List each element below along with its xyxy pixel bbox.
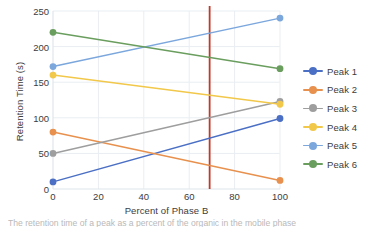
legend-item-1[interactable]: Peak 1 xyxy=(303,62,381,81)
line-chart-figure: Retention Time (s) 050100150200250 02040… xyxy=(0,0,381,227)
data-point-1-2 xyxy=(277,115,284,122)
legend-item-5[interactable]: Peak 5 xyxy=(303,136,381,155)
legend-label: Peak 3 xyxy=(327,103,357,114)
y-tick-label: 50 xyxy=(15,148,49,159)
series-line-5 xyxy=(53,18,280,66)
x-tick-label: 40 xyxy=(124,191,164,202)
legend-item-3[interactable]: Peak 3 xyxy=(303,99,381,118)
chart-legend: Peak 1Peak 2Peak 3Peak 4Peak 5Peak 6 xyxy=(303,62,381,174)
data-point-4-1 xyxy=(50,72,57,79)
data-point-1-1 xyxy=(50,178,57,185)
x-tick-label: 20 xyxy=(78,191,118,202)
series-lines xyxy=(53,18,280,182)
plot-svg xyxy=(53,11,280,189)
x-tick-label: 0 xyxy=(33,191,73,202)
legend-swatch-icon xyxy=(303,85,323,95)
legend-label: Peak 4 xyxy=(327,122,357,133)
legend-swatch-icon xyxy=(303,141,323,151)
figure-caption: The retention time of a peak as a percen… xyxy=(8,218,374,227)
legend-swatch-icon xyxy=(303,122,323,132)
y-tick-label: 250 xyxy=(15,6,49,17)
legend-label: Peak 2 xyxy=(327,84,357,95)
series-line-6 xyxy=(53,32,280,68)
legend-swatch-icon xyxy=(303,103,323,113)
y-axis-tick-labels: 050100150200250 xyxy=(12,11,49,189)
data-point-6-1 xyxy=(50,29,57,36)
x-tick-label: 100 xyxy=(260,191,300,202)
x-axis-title: Percent of Phase B xyxy=(40,205,293,216)
legend-swatch-icon xyxy=(303,66,323,76)
data-point-6-2 xyxy=(277,65,284,72)
data-point-5-2 xyxy=(277,15,284,22)
legend-item-2[interactable]: Peak 2 xyxy=(303,81,381,100)
legend-label: Peak 6 xyxy=(327,159,357,170)
data-point-3-1 xyxy=(50,150,57,157)
series-line-2 xyxy=(53,132,280,180)
legend-item-6[interactable]: Peak 6 xyxy=(303,155,381,174)
x-tick-label: 60 xyxy=(169,191,209,202)
series-line-4 xyxy=(53,75,280,104)
legend-swatch-icon xyxy=(303,159,323,169)
legend-item-4[interactable]: Peak 4 xyxy=(303,118,381,137)
chart-screenshot: Retention Time (s) 050100150200250 02040… xyxy=(0,0,381,227)
data-point-4-2 xyxy=(277,101,284,108)
data-point-5-1 xyxy=(50,63,57,70)
plot-area xyxy=(53,11,280,189)
x-tick-label: 80 xyxy=(215,191,255,202)
y-tick-label: 200 xyxy=(15,41,49,52)
y-tick-label: 150 xyxy=(15,77,49,88)
data-point-2-1 xyxy=(50,129,57,136)
data-point-2-2 xyxy=(277,177,284,184)
legend-label: Peak 5 xyxy=(327,140,357,151)
x-axis-tick-labels: 020406080100 xyxy=(53,191,280,205)
legend-label: Peak 1 xyxy=(327,66,357,77)
y-tick-label: 100 xyxy=(15,112,49,123)
